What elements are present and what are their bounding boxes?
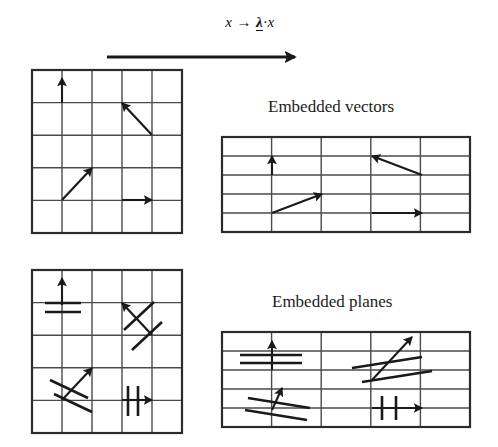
panel-image-vectors	[222, 137, 470, 232]
plane-line	[245, 410, 307, 420]
vector-up-right	[62, 368, 92, 400]
panel-source-vectors	[32, 70, 182, 233]
transformation-formula: x→λ·x	[150, 14, 350, 31]
panel-source-planes	[32, 270, 182, 433]
plane-line	[132, 322, 162, 350]
vector-up-left	[122, 103, 152, 135]
formula-maps-to-arrow: →	[233, 14, 257, 30]
eigenvector-scaling-figure: x→λ·x Embedded vectors Embedded planes	[0, 0, 498, 447]
vector-up-small	[272, 388, 282, 410]
formula-lhs: x	[225, 14, 232, 30]
vector-up-left	[372, 156, 422, 175]
vector-up-right	[62, 168, 92, 200]
caption-embedded-planes: Embedded planes	[272, 292, 392, 312]
caption-embedded-vectors: Embedded vectors	[268, 97, 394, 117]
vector-up-right	[272, 194, 322, 213]
grid-border	[222, 137, 470, 232]
formula-rhs: x	[267, 14, 274, 30]
grid-border	[32, 270, 182, 433]
grid-border	[32, 70, 182, 233]
panel-image-planes	[222, 332, 470, 427]
figure-canvas	[0, 0, 498, 447]
plane-line	[124, 302, 154, 330]
plane-line	[248, 398, 310, 408]
